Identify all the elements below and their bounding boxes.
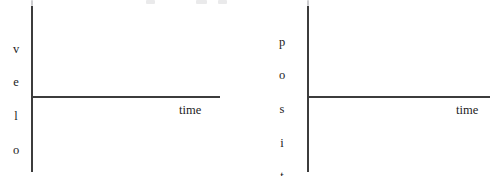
x-axis-label-time: time — [456, 104, 478, 117]
y-label-glyph: i — [275, 135, 289, 152]
y-label-glyph: o — [9, 142, 23, 159]
x-axis-label-time: time — [179, 104, 201, 117]
y-label-glyph: s — [275, 101, 289, 118]
y-axis-line — [31, 6, 33, 172]
position-time-chart: p o s i t i o n time — [248, 0, 497, 176]
figure-canvas: v e l o c i t y time p o s i t i o n tim… — [0, 0, 497, 176]
y-label-glyph: o — [275, 67, 289, 84]
y-label-glyph: t — [275, 168, 289, 176]
velocity-time-chart: v e l o c i t y time — [0, 0, 248, 176]
x-axis-line — [31, 96, 220, 98]
y-label-glyph: p — [275, 34, 289, 51]
x-axis-line — [307, 96, 490, 98]
y-label-glyph: v — [9, 41, 23, 58]
y-label-glyph: c — [9, 175, 23, 176]
y-axis-label-position: p o s i t i o n — [275, 17, 289, 176]
y-label-glyph: l — [9, 108, 23, 125]
y-axis-line — [307, 6, 309, 172]
y-label-glyph: e — [9, 74, 23, 91]
y-axis-label-velocity: v e l o c i t y — [9, 24, 23, 176]
